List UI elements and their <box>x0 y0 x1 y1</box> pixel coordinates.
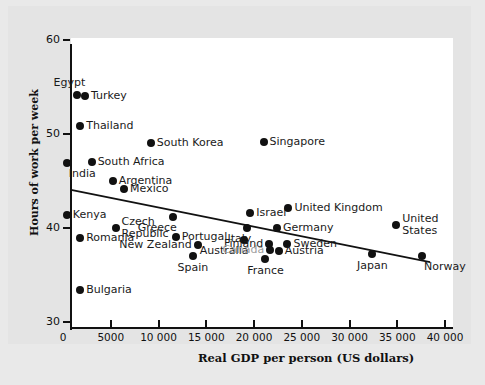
data-label-spain: Spain <box>163 262 223 274</box>
data-label-united-states: United States <box>402 213 448 237</box>
data-label-germany: Germany <box>283 222 334 234</box>
y-tick-30 <box>63 321 70 323</box>
x-tick-20000 <box>253 320 255 327</box>
x-tick-25000 <box>301 320 303 327</box>
data-label-thailand: Thailand <box>86 120 133 132</box>
x-tick-35000 <box>396 320 398 327</box>
x-tick-10000 <box>158 320 160 327</box>
data-point-kenya[interactable] <box>63 211 71 219</box>
y-tick-label-40: 40 <box>32 221 60 234</box>
data-label-greece: Greece <box>138 222 177 234</box>
x-tick-40000 <box>444 320 446 327</box>
x-axis-line <box>70 327 453 329</box>
data-label-japan: Japan <box>342 260 402 272</box>
data-label-turkey: Turkey <box>91 90 127 102</box>
data-point-south-africa[interactable] <box>88 158 96 166</box>
data-label-france: France <box>235 265 295 277</box>
data-label-mexico: Mexico <box>130 183 168 195</box>
x-tick-label-40000: 40 000 <box>415 331 475 343</box>
data-label-canada: Canada <box>222 244 264 256</box>
data-label-egypt: Egypt <box>54 77 86 89</box>
y-tick-50 <box>63 133 70 135</box>
data-point-canada[interactable] <box>266 246 274 254</box>
x-axis-title: Real GDP per person (US dollars) <box>198 351 414 365</box>
y-axis-title: Hours of work per week <box>28 88 41 238</box>
data-label-austria: Austria <box>285 245 324 257</box>
data-label-singapore: Singapore <box>270 136 326 148</box>
data-label-south-africa: South Africa <box>98 156 165 168</box>
y-tick-label-30: 30 <box>32 315 60 328</box>
data-label-south-korea: South Korea <box>157 137 224 149</box>
y-tick-label-50: 50 <box>32 127 60 140</box>
data-point-singapore[interactable] <box>260 138 268 146</box>
y-tick-label-60: 60 <box>32 33 60 46</box>
data-point-greece[interactable] <box>169 213 177 221</box>
chart-frame: Hours of work per week Real GDP per pers… <box>8 6 471 344</box>
data-point-austria[interactable] <box>275 247 283 255</box>
x-tick-5000 <box>110 320 112 327</box>
data-label-new-zealand: New Zealand <box>119 239 191 251</box>
x-tick-30000 <box>349 320 351 327</box>
data-point-argentina[interactable] <box>109 177 117 185</box>
data-label-india: India <box>69 168 96 180</box>
figure-background: Hours of work per week Real GDP per pers… <box>0 0 485 385</box>
x-tick-15000 <box>205 320 207 327</box>
y-tick-60 <box>63 39 70 41</box>
data-label-bulgaria: Bulgaria <box>86 284 132 296</box>
data-point-india[interactable] <box>63 159 71 167</box>
data-label-israel: Israel <box>256 207 286 219</box>
data-label-norway: Norway <box>424 261 466 273</box>
data-label-united-kingdom: United Kingdom <box>294 202 382 214</box>
data-label-kenya: Kenya <box>73 209 107 221</box>
y-tick-40 <box>63 227 70 229</box>
data-point-germany[interactable] <box>273 224 281 232</box>
